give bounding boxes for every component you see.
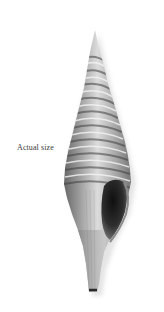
shell-illustration bbox=[0, 0, 164, 312]
shell-aperture bbox=[101, 180, 126, 240]
